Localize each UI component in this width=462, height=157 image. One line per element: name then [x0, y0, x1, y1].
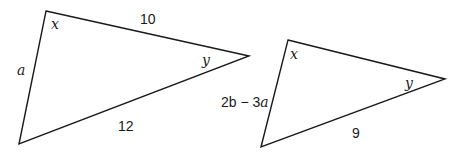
expr-minus-3: − 3: [237, 94, 261, 110]
triangle-right-side-bottom-length: 9: [352, 126, 360, 140]
expr-2b: 2b: [221, 94, 237, 110]
triangles-canvas: [0, 0, 462, 157]
triangle-right-angle-y: y: [405, 76, 413, 90]
similar-triangles-diagram: x y 10 a 12 x y 2b − 3a 9: [0, 0, 462, 157]
triangle-left-side-top-length: 10: [140, 12, 156, 26]
expr-a: a: [260, 94, 268, 110]
triangle-left-side-bottom-length: 12: [118, 119, 134, 133]
triangle-right-angle-x: x: [290, 47, 298, 61]
triangle-left-angle-x: x: [51, 17, 59, 31]
triangle-left-angle-y: y: [202, 53, 210, 67]
triangle-right-side-left-length: 2b − 3a: [221, 95, 269, 109]
triangle-left-side-left-length: a: [17, 63, 25, 77]
